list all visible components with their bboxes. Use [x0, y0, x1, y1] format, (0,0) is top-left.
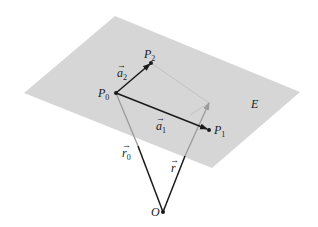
point-p0 — [114, 91, 118, 95]
label-r: r — [171, 161, 176, 175]
label-plane-e: E — [250, 97, 259, 111]
point-p1 — [207, 128, 211, 132]
plane-e — [24, 16, 300, 168]
plane-diagram: P2 P0 P1 O E → a2 → a1 → r0 → r — [0, 0, 318, 227]
vector-r0 — [138, 146, 163, 212]
point-o — [161, 210, 165, 214]
label-o: O — [151, 205, 160, 219]
